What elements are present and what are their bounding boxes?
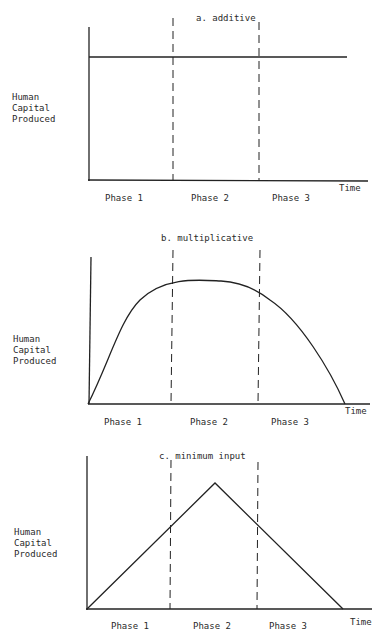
ylabel-line: Produced xyxy=(14,549,57,560)
ylabel-line: Human xyxy=(12,92,55,103)
chart-b-title: b. multiplicative xyxy=(161,233,253,244)
chart-c-axes xyxy=(86,456,372,610)
figure-canvas xyxy=(0,0,388,644)
chart-c-phase-2: Phase 2 xyxy=(193,621,231,632)
chart-c-ylabel: Human Capital Produced xyxy=(14,527,57,560)
chart-c-phase-3: Phase 3 xyxy=(269,621,307,632)
ylabel-line: Produced xyxy=(12,114,55,125)
chart-a-title: a. additive xyxy=(196,13,256,24)
ylabel-line: Produced xyxy=(13,356,56,367)
chart-b-axes xyxy=(88,257,370,404)
chart-c-xlabel: Time xyxy=(350,617,372,628)
chart-b-multiplicative-curve xyxy=(88,280,345,404)
chart-a-ylabel: Human Capital Produced xyxy=(12,92,55,125)
chart-a-phase-dividers xyxy=(173,18,259,180)
chart-c-minimum-input-line xyxy=(87,483,343,609)
chart-a-phase-3: Phase 3 xyxy=(272,193,310,204)
chart-b-phase-2: Phase 2 xyxy=(190,417,228,428)
ylabel-line: Capital xyxy=(14,538,57,549)
chart-a-phase-1: Phase 1 xyxy=(105,193,143,204)
chart-a-axes xyxy=(88,27,368,181)
ylabel-line: Capital xyxy=(13,345,56,356)
chart-c-phase-dividers xyxy=(170,460,258,609)
ylabel-line: Human xyxy=(13,334,56,345)
chart-a-xlabel: Time xyxy=(339,183,361,194)
chart-b-phase-1: Phase 1 xyxy=(104,417,142,428)
chart-b-ylabel: Human Capital Produced xyxy=(13,334,56,367)
ylabel-line: Human xyxy=(14,527,57,538)
chart-b-xlabel: Time xyxy=(345,406,367,417)
ylabel-line: Capital xyxy=(12,103,55,114)
chart-c-title: c. minimum input xyxy=(159,451,246,462)
chart-b-phase-dividers xyxy=(171,250,260,404)
chart-a-phase-2: Phase 2 xyxy=(191,193,229,204)
chart-c-phase-1: Phase 1 xyxy=(111,621,149,632)
chart-b-phase-3: Phase 3 xyxy=(271,417,309,428)
